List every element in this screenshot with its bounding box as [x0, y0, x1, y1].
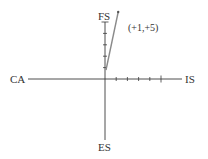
axis-label-ca: CA [10, 73, 25, 85]
vector-label: (+1,+5) [128, 22, 158, 34]
coordinate-diagram: CA IS FS ES (+1,+5) [0, 0, 208, 159]
axis-label-fs: FS [98, 10, 110, 22]
vector-tip-marker [117, 11, 119, 13]
axis-label-es: ES [98, 141, 111, 153]
axis-label-is: IS [185, 73, 195, 85]
